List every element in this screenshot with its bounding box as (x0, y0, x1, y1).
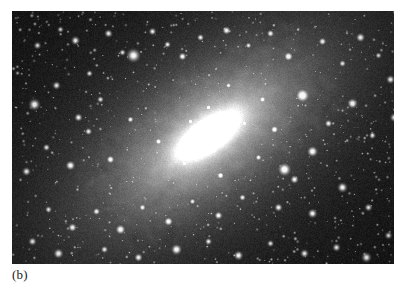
galaxy-image-canvas (12, 11, 394, 264)
astronomical-photograph (12, 11, 394, 264)
figure-panel: (b) (0, 0, 420, 285)
figure-caption-label: (b) (12, 266, 28, 283)
